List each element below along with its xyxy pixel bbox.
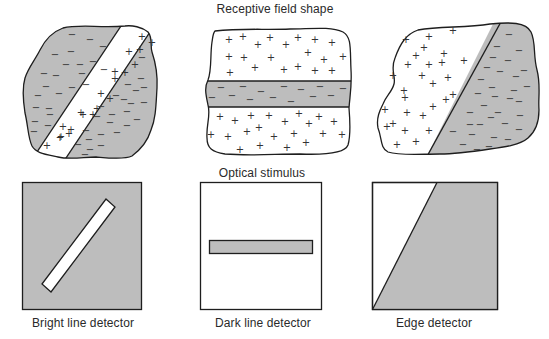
minus-sign: − [32, 102, 40, 113]
plus-sign: + [425, 31, 433, 42]
minus-sign: − [257, 86, 265, 97]
minus-sign: − [523, 81, 531, 92]
minus-sign: − [297, 84, 305, 95]
plus-sign: + [393, 139, 401, 150]
plus-sign: + [226, 67, 234, 78]
minus-sign: − [468, 129, 476, 140]
plus-sign: + [216, 111, 224, 122]
plus-sign: + [125, 46, 133, 57]
minus-sign: − [97, 140, 105, 151]
minus-sign: − [217, 82, 225, 93]
minus-sign: − [246, 94, 254, 105]
minus-sign: − [506, 93, 514, 104]
plus-sign: + [59, 121, 67, 132]
plus-sign: + [236, 144, 244, 155]
plus-sign: + [240, 52, 248, 63]
minus-sign: − [493, 41, 501, 52]
minus-sign: − [491, 91, 499, 102]
plus-sign: + [207, 129, 215, 140]
minus-sign: − [483, 62, 491, 73]
plus-sign: + [444, 72, 452, 83]
minus-sign: − [477, 74, 485, 85]
dark-line-stimulus [201, 183, 322, 310]
plus-sign: + [302, 137, 310, 148]
plus-sign: + [77, 107, 85, 118]
minus-sign: − [97, 129, 105, 140]
plus-sign: + [231, 115, 239, 126]
plus-sign: + [243, 126, 251, 137]
plus-sign: + [401, 92, 409, 103]
minus-sign: − [280, 81, 288, 92]
minus-sign: − [138, 52, 146, 63]
plus-sign: + [256, 140, 264, 151]
minus-sign: − [44, 120, 52, 131]
plus-sign: + [412, 50, 420, 61]
minus-sign: − [52, 70, 60, 81]
plus-sign: + [225, 34, 233, 45]
plus-sign: + [311, 34, 319, 45]
plus-sign: + [294, 61, 302, 72]
bright-line-receptive-field: ++++++++++++++++++++−−−−−−−−−−−−−−−−−−−−… [0, 0, 180, 170]
plus-sign: + [328, 65, 336, 76]
minus-sign: − [99, 41, 107, 52]
plus-sign: + [111, 73, 119, 84]
minus-sign: − [504, 55, 512, 66]
minus-sign: − [487, 112, 495, 123]
minus-sign: − [501, 118, 509, 129]
plus-sign: + [320, 54, 328, 65]
plus-sign: + [319, 128, 327, 139]
plus-sign: + [383, 121, 391, 132]
minus-sign: − [339, 83, 347, 94]
plus-sign: + [281, 116, 289, 127]
plus-sign: + [339, 51, 347, 62]
minus-sign: − [100, 64, 108, 75]
plus-sign: + [282, 39, 290, 50]
minus-sign: − [466, 107, 474, 118]
minus-sign: − [208, 92, 216, 103]
minus-sign: − [132, 85, 140, 96]
minus-sign: − [67, 46, 75, 57]
optical-stimulus-title: Optical stimulus [219, 166, 305, 180]
plus-sign: + [304, 47, 312, 58]
minus-sign: − [474, 88, 482, 99]
dark-line-detector-label: Dark line detector [215, 316, 311, 330]
plus-sign: + [330, 116, 338, 127]
plus-sign: + [225, 51, 233, 62]
minus-sign: − [269, 92, 277, 103]
plus-sign: + [290, 128, 298, 139]
plus-sign: + [420, 42, 428, 53]
plus-sign: + [412, 136, 420, 147]
plus-sign: + [148, 37, 156, 48]
minus-sign: − [480, 100, 488, 111]
plus-sign: + [97, 88, 105, 99]
edge-stimulus [373, 183, 498, 310]
minus-sign: − [512, 71, 520, 82]
plus-sign: + [267, 52, 275, 63]
plus-sign: + [401, 125, 409, 136]
plus-sign: + [43, 140, 51, 151]
minus-sign: − [123, 120, 131, 131]
edge-receptive-field: ++++++++++++++++++++++++++++−−−−−−−−−−−−… [370, 0, 549, 170]
plus-sign: + [389, 70, 397, 81]
minus-sign: − [133, 114, 141, 125]
minus-sign: − [228, 90, 236, 101]
plus-sign: + [404, 59, 412, 70]
plus-sign: + [460, 55, 468, 66]
plus-sign: + [425, 59, 433, 70]
minus-sign: − [78, 68, 86, 79]
plus-sign: + [254, 39, 262, 50]
minus-sign: − [140, 82, 148, 93]
minus-sign: − [515, 124, 523, 135]
plus-sign: + [294, 32, 302, 43]
minus-sign: − [520, 65, 528, 76]
plus-sign: + [247, 110, 255, 121]
minus-sign: − [473, 144, 481, 155]
plus-sign: + [224, 131, 232, 142]
minus-sign: − [476, 119, 484, 130]
plus-sign: + [265, 110, 273, 121]
minus-sign: − [62, 59, 70, 70]
plus-sign: + [280, 64, 288, 75]
minus-sign: − [30, 126, 38, 137]
minus-sign: − [505, 29, 513, 40]
edge-detector-label: Edge detector [396, 316, 472, 330]
